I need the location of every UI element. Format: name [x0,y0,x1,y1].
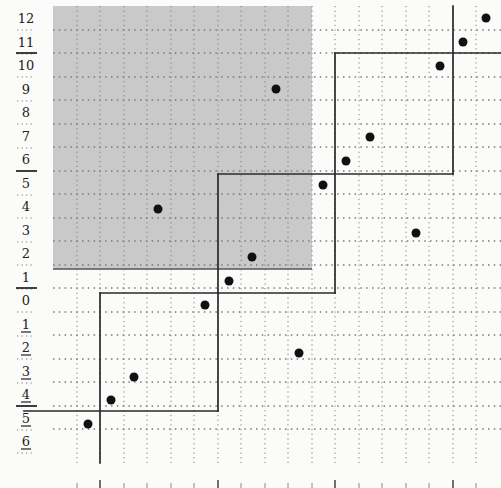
row-labels: 1211109876543210123456 [16,11,37,453]
data-point [436,62,445,71]
row-label: 5 [22,176,30,191]
row-label: 3 [22,364,30,379]
row-label: 8 [22,105,30,120]
data-point [225,277,234,286]
data-point [130,373,139,382]
data-point [319,181,328,190]
data-point [366,133,375,142]
row-label: 1 [22,270,30,285]
row-label: 6 [22,152,30,167]
data-point [201,301,210,310]
row-label: 10 [18,58,35,73]
row-label: 4 [22,199,30,214]
permutation-diagram: 1211109876543210123456 [0,0,501,488]
row-label: 3 [22,223,30,238]
shaded-rectangle [53,6,312,269]
data-point [412,229,421,238]
row-label: 7 [22,129,30,144]
row-label: 5 [22,411,30,426]
data-point [459,38,468,47]
data-point [272,85,281,94]
data-point [482,14,491,23]
data-point [84,420,93,429]
row-label: 2 [22,246,30,261]
row-label: 2 [22,340,30,355]
row-label: 12 [18,11,35,26]
row-label: 6 [22,434,30,449]
data-point [107,396,116,405]
data-point [295,349,304,358]
row-label: 11 [18,35,35,50]
data-point [342,157,351,166]
row-label: 4 [22,387,30,402]
bottom-ticks [77,480,476,488]
row-label: 9 [22,82,30,97]
shaded-region [53,6,312,269]
data-point [248,253,257,262]
row-label: 1 [22,317,30,332]
data-point [154,205,163,214]
row-label: 0 [22,293,30,308]
